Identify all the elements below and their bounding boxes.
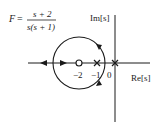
transfer-function-formula: F = s + 2 s(s + 1) bbox=[8, 9, 56, 32]
formula-equals: = bbox=[17, 13, 23, 24]
root-locus-diagram: F = s + 2 s(s + 1) Im[s] Re[s] −2 −1 0 bbox=[0, 0, 161, 131]
tick-label-minus-2: −2 bbox=[73, 70, 83, 80]
formula-denominator: s(s + 1) bbox=[27, 22, 55, 32]
formula-numerator: s + 2 bbox=[33, 9, 52, 19]
formula-lhs: F bbox=[8, 13, 16, 24]
arrow-down-circle-icon bbox=[96, 80, 102, 86]
zero-marker-icon bbox=[76, 60, 82, 66]
arrow-left-icon bbox=[40, 60, 47, 66]
real-axis-label: Re[s] bbox=[131, 73, 151, 83]
tick-label-0: 0 bbox=[107, 70, 112, 80]
tick-label-minus-1: −1 bbox=[91, 70, 101, 80]
imag-axis-label: Im[s] bbox=[90, 13, 110, 23]
arrow-right-icon bbox=[60, 60, 67, 66]
